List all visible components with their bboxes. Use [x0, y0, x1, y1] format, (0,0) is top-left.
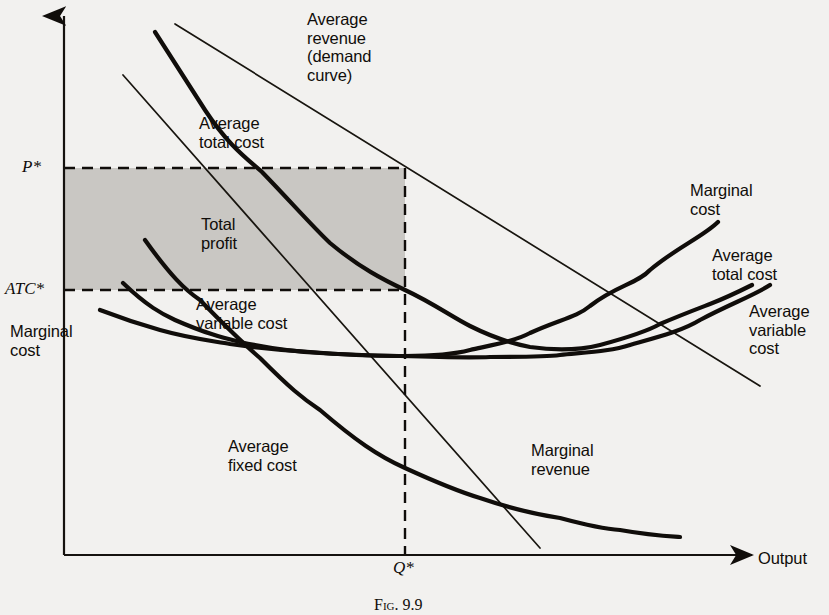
label-total-profit: Total profit	[201, 215, 237, 252]
y-tick-label-price: P*	[22, 157, 41, 177]
label-average-variable-cost-left: Average variable cost	[196, 295, 287, 332]
x-axis-label-output: Output	[758, 549, 807, 568]
label-marginal-cost-left: Marginal cost	[10, 322, 72, 359]
label-marginal-revenue: Marginal revenue	[531, 441, 593, 478]
y-tick-label-atc: ATC*	[5, 279, 44, 299]
label-average-fixed-cost: Average fixed cost	[228, 437, 297, 474]
label-average-total-cost-upper: Average total cost	[199, 114, 264, 151]
label-average-variable-cost-right: Average variable cost	[749, 302, 809, 358]
label-marginal-cost-right: Marginal cost	[690, 181, 752, 218]
figure-root: P* ATC* Q* Output Average revenue (deman…	[0, 0, 829, 615]
label-average-total-cost-right: Average total cost	[712, 246, 777, 283]
label-average-revenue: Average revenue (demand curve)	[307, 10, 371, 84]
x-tick-label-quantity: Q*	[393, 558, 414, 578]
figure-caption: Fig. 9.9	[374, 596, 423, 614]
marginal-revenue-curve	[123, 75, 540, 548]
cost-revenue-chart	[0, 0, 829, 615]
